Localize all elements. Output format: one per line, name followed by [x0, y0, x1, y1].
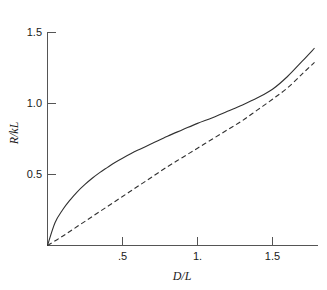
x-tick-label-1.0: 1. — [193, 250, 202, 262]
x-tick-label-1.5: 1.5 — [265, 250, 280, 262]
y-axis-title: R/kL — [7, 121, 21, 145]
x-axis-title: D/L — [172, 269, 192, 283]
y-tick-label-0.5: 0.5 — [27, 168, 42, 180]
chart-figure: 1.5 1.0 0.5 .5 1. 1.5 D/L R/kL — [0, 0, 327, 290]
line-chart: 1.5 1.0 0.5 .5 1. 1.5 D/L R/kL — [0, 0, 327, 290]
y-tick-label-1.0: 1.0 — [27, 97, 42, 109]
series-line-dashed — [48, 62, 315, 245]
x-tick-label-0.5: .5 — [118, 250, 127, 262]
y-tick-label-1.5: 1.5 — [27, 26, 42, 38]
series-line-solid — [48, 48, 315, 245]
